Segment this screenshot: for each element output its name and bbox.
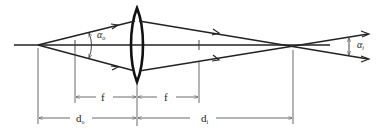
- lens-diagram: αo αi f f do di: [0, 0, 384, 131]
- diagram-canvas: αo αi f f do di: [0, 0, 384, 131]
- object-angle-label: αo: [97, 29, 105, 41]
- focal-length-left-label: f: [101, 91, 105, 103]
- image-angle-label: αi: [357, 39, 364, 51]
- object-distance-label: do: [76, 112, 85, 125]
- image-distance-label: di: [201, 112, 209, 125]
- ray-lower-incoming: [38, 45, 135, 71]
- ray-arrow-lower-in: [111, 66, 118, 70]
- ray-upper-incoming: [38, 21, 135, 45]
- focal-length-right-label: f: [164, 91, 168, 103]
